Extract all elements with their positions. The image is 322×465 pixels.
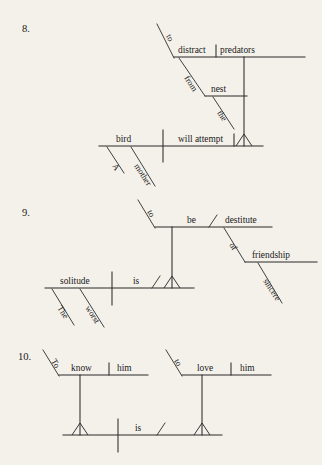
word-infinitive-verb-8: distract <box>178 45 206 55</box>
diagram-page: 8. bird will attempt A mother distract p… <box>0 0 322 465</box>
word-subject-8: bird <box>116 134 131 144</box>
word-subject-article-8: A <box>110 162 122 173</box>
word-prep-object-article-8: the <box>215 109 229 123</box>
word-subject-adjective-8: mother <box>132 162 154 188</box>
infinitive-marker-slant-8 <box>157 24 174 58</box>
word-preposition-8: from <box>182 74 200 94</box>
word-infinitive-object-8: predators <box>220 45 255 55</box>
word-verb-8: will attempt <box>178 134 223 144</box>
word-prep-object-8: nest <box>211 84 226 94</box>
sentence-diagram-8: 8. bird will attempt A mother distract p… <box>0 0 322 465</box>
exercise-number-8: 8. <box>22 23 30 34</box>
